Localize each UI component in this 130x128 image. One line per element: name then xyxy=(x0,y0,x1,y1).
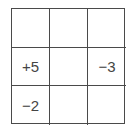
cell-r3-c2 xyxy=(50,86,88,125)
cell-r2-c3: −3 xyxy=(88,48,126,86)
cell-r1-c2 xyxy=(50,9,88,48)
cell-r3-c1: −2 xyxy=(12,86,50,125)
cell-r1-c3 xyxy=(88,9,126,48)
cell-r2-c1: +5 xyxy=(12,48,50,86)
number-grid: +5 −3 −2 xyxy=(11,8,125,124)
cell-r3-c3 xyxy=(88,86,126,125)
cell-r1-c1 xyxy=(12,9,50,48)
cell-r2-c2 xyxy=(50,48,88,86)
